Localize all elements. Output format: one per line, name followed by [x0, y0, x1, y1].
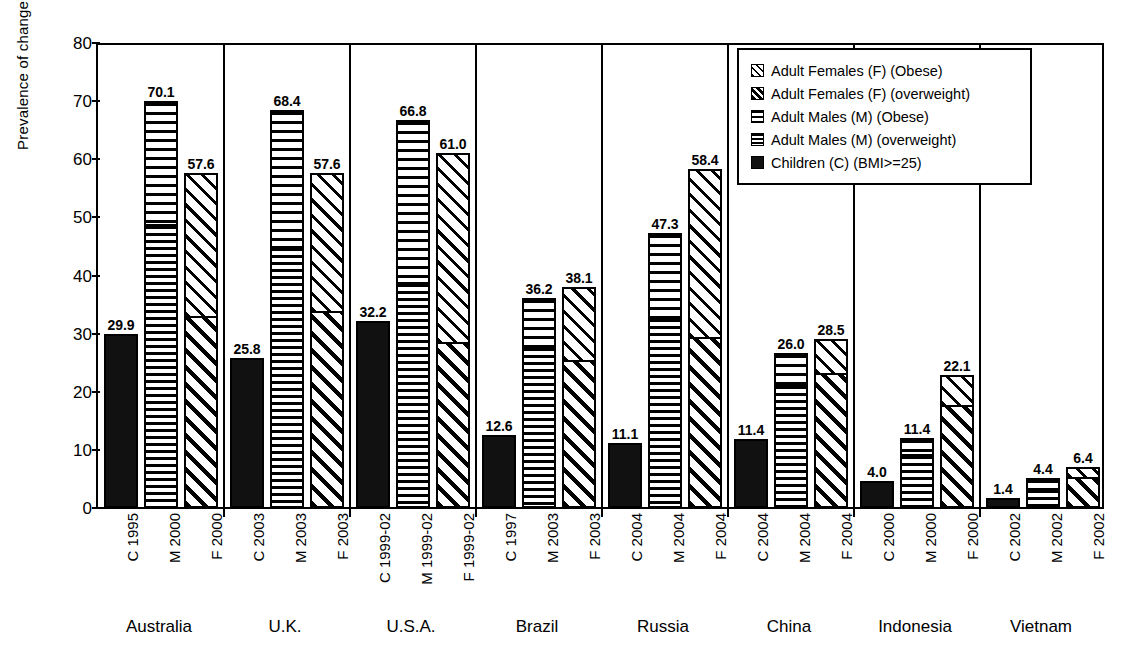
- bar-slot: 68.4: [270, 45, 304, 508]
- bar-segment: [232, 360, 262, 506]
- bar[interactable]: 26.0: [774, 353, 808, 508]
- bar-segment: [816, 373, 846, 506]
- bar-value-label: 70.1: [147, 84, 174, 100]
- bar[interactable]: 47.3: [648, 233, 682, 508]
- bar[interactable]: 36.2: [522, 298, 556, 508]
- bar-slot: 11.1: [608, 45, 642, 508]
- bar-segment: [862, 483, 892, 506]
- bar-segment: [1068, 469, 1098, 477]
- bar-segment: [312, 311, 342, 506]
- bar-value-label: 28.5: [817, 322, 844, 338]
- bar-slot: 47.3: [648, 45, 682, 508]
- bar-slot: 25.8: [230, 45, 264, 508]
- bar[interactable]: 12.6: [482, 435, 516, 508]
- bar[interactable]: 22.1: [940, 375, 974, 508]
- bar[interactable]: 6.4: [1066, 467, 1100, 508]
- bar-slot: 70.1: [144, 45, 178, 508]
- group-name-label: Australia: [126, 617, 192, 637]
- legend-item[interactable]: Adult Females (F) (overweight): [751, 82, 1020, 105]
- group-name-label: Russia: [637, 617, 689, 637]
- x-axis-tick-labels: C 1995M 2000F 2000C 2003M 2003F 2003C 19…: [96, 509, 1104, 605]
- x-axis-tick-label: F 2000: [208, 513, 225, 560]
- bar-segment: [902, 454, 932, 506]
- bar-value-label: 22.1: [943, 358, 970, 374]
- bar-segment: [358, 323, 388, 506]
- bar-value-label: 66.8: [399, 103, 426, 119]
- male-overweight-swatch: [751, 133, 764, 146]
- chart-figure: Prevalence of change 01020304050607080 2…: [0, 0, 1122, 664]
- bar[interactable]: 57.6: [310, 173, 344, 508]
- bar-segment: [438, 342, 468, 506]
- x-axis-tick-label: C 2004: [628, 513, 645, 561]
- bar-segment: [484, 437, 514, 506]
- bar[interactable]: 61.0: [436, 153, 470, 508]
- bar[interactable]: 70.1: [144, 101, 178, 508]
- bar-segment: [650, 235, 680, 317]
- bar-slot: 58.4: [688, 45, 722, 508]
- bar[interactable]: 32.2: [356, 321, 390, 508]
- bar-segment: [690, 171, 720, 337]
- legend-item-label: Children (C) (BMI>=25): [771, 155, 922, 171]
- bar-segment: [398, 122, 428, 282]
- bar-segment: [690, 337, 720, 506]
- bar-slot: 66.8: [396, 45, 430, 508]
- legend-item-label: Adult Females (F) (overweight): [771, 86, 970, 102]
- bar-value-label: 36.2: [525, 281, 552, 297]
- legend-item[interactable]: Adult Males (M) (Obese): [751, 105, 1020, 128]
- bar-slot: 38.1: [562, 45, 596, 508]
- bar[interactable]: 4.0: [860, 481, 894, 508]
- legend-item-label: Adult Males (M) (overweight): [771, 132, 956, 148]
- bar[interactable]: 28.5: [814, 339, 848, 508]
- bar-value-label: 12.6: [485, 418, 512, 434]
- y-axis-tick-label: 10: [48, 441, 92, 458]
- x-axis-tick-label: C 2000: [880, 513, 897, 561]
- bar[interactable]: 11.1: [608, 443, 642, 508]
- x-axis-tick-label: F 2003: [586, 513, 603, 560]
- bar-segment: [312, 175, 342, 311]
- bar-segment: [524, 346, 554, 506]
- legend-item[interactable]: Adult Males (M) (overweight): [751, 128, 1020, 151]
- y-axis-tick-label: 20: [48, 383, 92, 400]
- bar-segment: [736, 441, 766, 506]
- bar[interactable]: 58.4: [688, 169, 722, 508]
- bar[interactable]: 4.4: [1026, 478, 1060, 508]
- legend-item[interactable]: Adult Females (F) (Obese): [751, 59, 1020, 82]
- bar[interactable]: 11.4: [900, 438, 934, 508]
- y-axis-title: Prevalence of change: [14, 0, 31, 150]
- x-axis-tick-label: M 2003: [292, 513, 309, 563]
- y-axis-tick-label: 60: [48, 151, 92, 168]
- bar-value-label: 58.4: [691, 152, 718, 168]
- bar-value-label: 6.4: [1073, 450, 1092, 466]
- bar[interactable]: 25.8: [230, 358, 264, 508]
- legend-item-label: Adult Males (M) (Obese): [771, 109, 929, 125]
- y-axis-tick-label: 30: [48, 325, 92, 342]
- bar-segment: [564, 289, 594, 361]
- bar[interactable]: 11.4: [734, 439, 768, 508]
- bar-value-label: 61.0: [439, 136, 466, 152]
- bar[interactable]: 38.1: [562, 287, 596, 508]
- bar[interactable]: 57.6: [184, 173, 218, 508]
- bar-value-label: 29.9: [107, 317, 134, 333]
- bar[interactable]: 29.9: [104, 334, 138, 508]
- x-axis-tick-label: C 1995: [124, 513, 141, 561]
- bar[interactable]: 66.8: [396, 120, 430, 508]
- bar-group: 29.970.157.6: [98, 45, 224, 508]
- x-axis-group-labels: AustraliaU.K.U.S.A.BrazilRussiaChinaIndo…: [96, 617, 1104, 645]
- bar[interactable]: 68.4: [270, 110, 304, 508]
- bar-segment: [272, 112, 302, 245]
- bar-value-label: 1.4: [993, 481, 1012, 497]
- bar-segment: [988, 500, 1018, 506]
- bar-slot: 57.6: [310, 45, 344, 508]
- x-axis-tick-label: C 1997: [502, 513, 519, 561]
- y-axis-tick-label: 70: [48, 93, 92, 110]
- bar-segment: [186, 316, 216, 506]
- bar-value-label: 11.1: [612, 426, 638, 442]
- bar-segment: [1028, 480, 1058, 488]
- legend-item[interactable]: Children (C) (BMI>=25): [751, 151, 1020, 174]
- x-axis-tick-label: M 2000: [922, 513, 939, 563]
- bar-slot: 61.0: [436, 45, 470, 508]
- bar-value-label: 11.4: [904, 421, 930, 437]
- group-name-label: U.K.: [268, 617, 301, 637]
- bar-value-label: 68.4: [273, 93, 300, 109]
- x-axis-tick-label: F 2000: [964, 513, 981, 560]
